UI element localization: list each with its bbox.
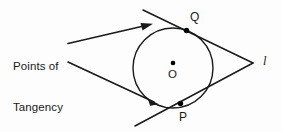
tangency-point-q-dot [184,28,189,33]
label-center-o: O [168,68,177,82]
annotation-line-2: Tangency [13,101,63,115]
label-point-p: P [179,110,187,124]
label-line-l: l [263,54,266,69]
label-point-q: Q [190,10,200,24]
leader-arrow-lower [68,62,159,106]
tangency-point-p-dot [178,101,183,106]
annotation-points-of-tangency: Points of Tangency [13,33,63,132]
annotation-line-1: Points of [13,60,63,74]
tangency-diagram: Points of Tangency Q P O l [0,0,282,132]
lower-tangent-line [135,63,253,126]
leader-arrow-upper [68,23,153,44]
center-dot [171,61,176,66]
